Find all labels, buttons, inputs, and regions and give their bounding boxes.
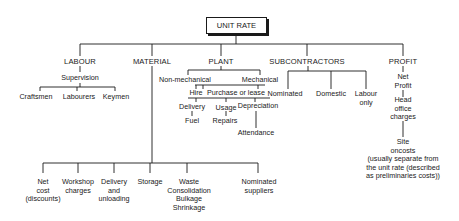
nominated-suppliers-node: Nominated suppliers	[242, 178, 277, 195]
net-profit-node: Net Profit	[395, 73, 412, 90]
repairs-node: Repairs	[213, 117, 238, 126]
waste-node: Waste Consolidation Bulkage Shrinkage	[167, 178, 211, 212]
attendance-node: Attendance	[238, 129, 274, 138]
profit-node: PROFIT	[389, 58, 417, 67]
domestic-node: Domestic	[316, 90, 346, 99]
craftsmen-node: Craftsmen	[19, 93, 52, 102]
labour-only-node: Labour only	[355, 90, 377, 107]
subcontractors-node: SUBCONTRACTORS	[269, 58, 345, 67]
keymen-node: Keymen	[103, 93, 129, 102]
depreciation-node: Depreciation	[238, 102, 278, 111]
mechanical-node: Mechanical	[242, 76, 278, 85]
net-cost-node: Net cost (discounts)	[25, 178, 60, 204]
supervision-node: Supervision	[61, 74, 99, 83]
plant-node: PLANT	[209, 58, 234, 67]
hire-node: Hire	[189, 89, 202, 98]
labourers-node: Labourers	[63, 93, 95, 102]
purchase-lease-node: Purchase or lease	[207, 89, 265, 98]
non-mechanical-node: Non-mechanical	[159, 76, 211, 85]
material-node: MATERIAL	[133, 58, 171, 67]
labour-node: LABOUR	[64, 58, 96, 67]
delivery-node: Delivery	[179, 103, 205, 112]
fuel-node: Fuel	[185, 117, 199, 126]
head-office-charges-node: Head office charges	[390, 96, 416, 122]
nominated-node: Nominated	[268, 90, 303, 99]
unit-rate-root: UNIT RATE	[206, 17, 267, 34]
site-oncosts-node: Site oncosts (usually separate from the …	[366, 138, 440, 181]
storage-node: Storage	[137, 178, 162, 187]
usage-node: Usage	[216, 104, 237, 113]
delivery-unloading-node: Delivery and unloading	[98, 178, 129, 204]
workshop-charges-node: Workshop charges	[62, 178, 94, 195]
